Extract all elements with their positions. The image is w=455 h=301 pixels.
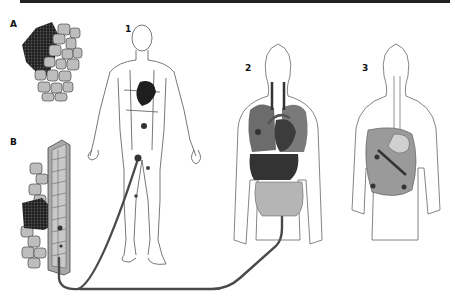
figure-2-body — [234, 44, 322, 244]
liver — [250, 154, 299, 180]
intestines — [255, 182, 303, 216]
panel-b-vessel — [21, 140, 70, 275]
illustration-canvas — [0, 0, 455, 301]
panel-a-tissue — [22, 22, 82, 101]
figure-1-body — [88, 25, 201, 264]
figure-3-body — [352, 44, 440, 240]
tube-to-organs — [80, 210, 282, 289]
spread-tubes — [59, 162, 282, 289]
left-lung — [248, 104, 276, 152]
